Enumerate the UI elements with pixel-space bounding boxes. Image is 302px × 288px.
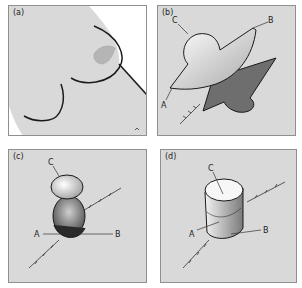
panel-c: C A B (c) [8, 149, 147, 283]
callout-b: B [268, 16, 274, 25]
callout-c: C [48, 158, 54, 167]
callout-b: B [115, 230, 121, 239]
panel-a: (a) [8, 5, 147, 136]
panel-label: (c) [13, 152, 24, 161]
callout-a: A [189, 230, 195, 239]
panel-d-illustration: C A B [161, 150, 297, 283]
panel-label: (d) [165, 152, 176, 161]
callout-a: A [161, 101, 167, 110]
panel-c-illustration: C A B [9, 150, 147, 283]
callout-a: A [34, 230, 40, 239]
panel-label: (b) [162, 8, 173, 17]
panel-d: C A B (d) [160, 149, 297, 283]
panel-a-illustration [9, 6, 147, 136]
callout-b: B [263, 226, 269, 235]
panel-b: C B A (b) [157, 5, 296, 136]
panel-b-illustration: C B A [158, 6, 296, 136]
callout-c: C [172, 16, 178, 25]
panel-label: (a) [13, 8, 24, 17]
callout-c: C [208, 164, 214, 173]
